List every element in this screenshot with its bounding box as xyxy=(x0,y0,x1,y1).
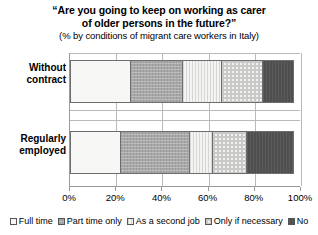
category-label-regularly-employed: Regularly employed xyxy=(2,133,66,156)
bar-segment xyxy=(263,61,293,102)
x-tick-label-60: 60% xyxy=(190,192,226,203)
bar-segment xyxy=(121,132,190,173)
chart-title-line-2: of older persons in the future?” xyxy=(0,17,318,30)
category-label-without-contract: Without contract xyxy=(2,62,66,85)
legend-label: No xyxy=(297,217,309,226)
bar-segment xyxy=(190,132,213,173)
bar-segment xyxy=(247,132,293,173)
x-tick-label-20: 20% xyxy=(97,192,133,203)
legend-swatch-icon xyxy=(205,218,212,225)
x-tick-label-100: 100% xyxy=(282,192,318,203)
legend-item[interactable]: Only if necessary xyxy=(205,217,283,226)
x-tick-0 xyxy=(69,187,70,191)
bar-segment xyxy=(131,61,184,102)
chart-title-block: “Are you going to keep on working as car… xyxy=(0,4,318,42)
bar-segment xyxy=(71,132,121,173)
legend-item[interactable]: Full time xyxy=(10,217,53,226)
legend-swatch-icon xyxy=(288,218,295,225)
gridline-100 xyxy=(301,53,302,186)
x-tick-label-80: 80% xyxy=(236,192,272,203)
legend-label: Only if necessary xyxy=(214,217,283,226)
stacked-bar-chart: “Are you going to keep on working as car… xyxy=(0,0,318,235)
legend-label: Full time xyxy=(19,217,53,226)
bar-segment xyxy=(213,132,247,173)
bar-segment xyxy=(183,61,222,102)
bar-regularly-employed xyxy=(70,131,294,174)
chart-subtitle: (% by conditions of migrant care workers… xyxy=(0,30,318,42)
bar-segment xyxy=(222,61,263,102)
bar-segment xyxy=(71,61,131,102)
legend-item[interactable]: Part time only xyxy=(58,217,122,226)
plot-mid-border-2 xyxy=(70,120,300,121)
x-tick-label-40: 40% xyxy=(143,192,179,203)
legend-item[interactable]: No xyxy=(288,217,309,226)
x-tick-60 xyxy=(208,187,209,191)
plot-mid-border-1 xyxy=(70,110,300,111)
x-tick-100 xyxy=(300,187,301,191)
plot-area xyxy=(69,53,300,187)
bar-without-contract xyxy=(70,60,294,103)
x-tick-label-0: 0% xyxy=(51,192,87,203)
legend-swatch-icon xyxy=(58,218,65,225)
plot-top-border xyxy=(70,53,300,54)
legend-swatch-icon xyxy=(127,218,134,225)
legend-label: As a second job xyxy=(136,217,200,226)
x-tick-40 xyxy=(161,187,162,191)
x-tick-80 xyxy=(254,187,255,191)
chart-legend: Full timePart time onlyAs a second jobOn… xyxy=(0,217,318,226)
legend-item[interactable]: As a second job xyxy=(127,217,200,226)
x-tick-20 xyxy=(115,187,116,191)
legend-swatch-icon xyxy=(10,218,17,225)
chart-title-line-1: “Are you going to keep on working as car… xyxy=(0,4,318,17)
legend-label: Part time only xyxy=(67,217,122,226)
